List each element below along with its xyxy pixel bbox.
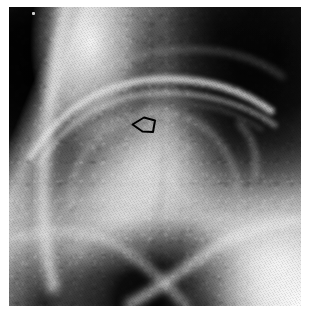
lateral-cortex-band-left <box>43 7 67 287</box>
bright-pubic-ramus-wash <box>9 7 301 306</box>
femoral-neck-line <box>141 145 164 251</box>
bright-bottom-right-corner <box>9 7 301 306</box>
film-margin-right <box>301 0 313 318</box>
obturator-superior-margin <box>129 221 301 305</box>
dark-region-upper-right <box>9 7 301 306</box>
bright-iliac-cortex-band <box>9 7 301 306</box>
bone-cortex-outlines <box>9 7 301 306</box>
hip-radiograph-figure <box>0 0 313 318</box>
dark-region-bottom-left <box>9 7 301 306</box>
superior-iliac-arc <box>55 49 283 111</box>
film-speck-artifact <box>32 12 35 15</box>
femoral-neck-bright-wash <box>9 7 301 306</box>
dark-region-upper-left-core <box>9 7 301 306</box>
film-margin-top <box>0 0 313 7</box>
soft-tissue-base-layer <box>9 7 301 306</box>
film-margin-left <box>0 0 9 318</box>
arrowhead-outline <box>133 118 156 133</box>
scan-line-texture <box>9 7 301 306</box>
dark-region-upper-left <box>9 7 301 306</box>
femoral-head-bright-dome <box>9 7 301 306</box>
dark-region-mid-right <box>9 7 301 306</box>
trochanteric-notch-edge <box>239 123 256 177</box>
ischium-ramus-band <box>13 231 187 306</box>
radiograph-film-area <box>9 7 301 306</box>
film-grain-texture <box>9 7 301 306</box>
dark-region-upper-right-secondary <box>9 7 301 306</box>
lesion-arrow-marker <box>128 110 168 144</box>
film-margin-bottom <box>0 306 313 318</box>
bright-iliac-cortex-rim <box>9 7 301 306</box>
dark-region-obturator-foramen <box>9 7 301 306</box>
